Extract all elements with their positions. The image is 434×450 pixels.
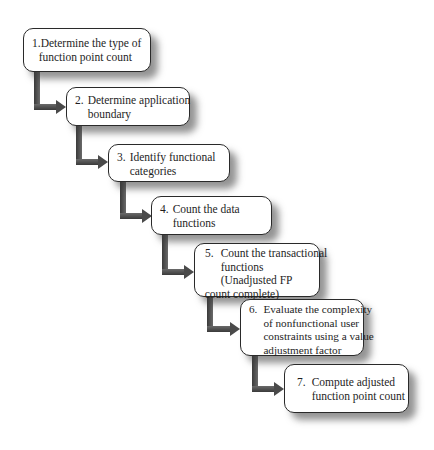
step-number: 2. <box>75 94 84 121</box>
step-text-line: function point count <box>39 51 142 65</box>
step-text-line: (Unadjusted FP <box>221 274 328 288</box>
arrow-3-to-4-icon <box>120 182 152 223</box>
step-text-line: constraints using a value <box>263 330 373 344</box>
step-7-box: 7. Compute adjusted function point count <box>284 364 409 413</box>
step-text-line: function point count <box>312 390 405 404</box>
step-number: 3. <box>117 151 126 178</box>
step-text-line: adjustment factor <box>263 344 373 358</box>
step-text-line: functions <box>221 261 328 275</box>
step-text-line: Determine application <box>88 94 191 108</box>
step-3-box: 3. Identify functional categories <box>108 144 230 182</box>
step-text-line: Evaluate the complexity <box>263 303 373 317</box>
function-point-process-diagram: 1. Determine the type of function point … <box>0 0 434 450</box>
step-1-box: 1. Determine the type of function point … <box>23 28 151 72</box>
step-number: 6. <box>249 303 257 357</box>
step-text-line: boundary <box>88 108 191 122</box>
step-text-line: of nonfunctional user <box>263 317 373 331</box>
step-text-line: Count the transactional <box>221 247 328 261</box>
step-number: 7. <box>297 376 306 403</box>
step-text-line: categories <box>130 165 216 179</box>
arrow-4-to-5-icon <box>162 235 194 279</box>
step-text-line: Compute adjusted <box>312 376 405 390</box>
step-6-box: 6. Evaluate the complexity of nonfunctio… <box>240 299 364 356</box>
arrow-6-to-7-icon <box>252 356 284 396</box>
arrow-1-to-2-icon <box>34 72 66 114</box>
step-text-line: Determine the type of <box>41 37 142 51</box>
step-number: 4. <box>160 203 169 230</box>
step-5-box: 5. Count the transactional functions (Un… <box>194 243 320 297</box>
arrow-2-to-3-icon <box>76 125 108 169</box>
step-text-line: Identify functional <box>130 151 216 165</box>
step-text-line: Count the data <box>173 203 240 217</box>
step-2-box: 2. Determine application boundary <box>66 87 190 126</box>
arrow-5-to-6-icon <box>207 296 240 336</box>
step-text-line: functions <box>173 217 240 231</box>
step-4-box: 4. Count the data functions <box>151 196 272 235</box>
